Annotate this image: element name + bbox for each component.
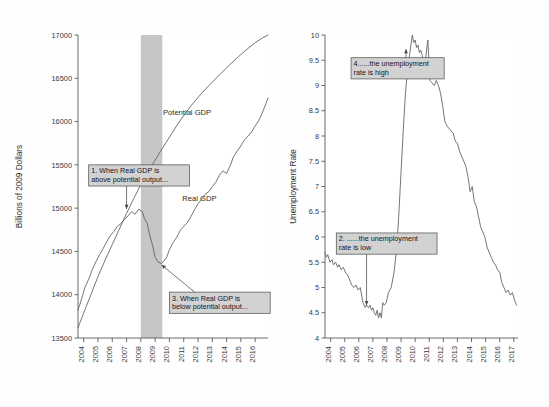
x-tick-label: 2013 bbox=[450, 346, 459, 362]
series-label-real-gdp: Real GDP bbox=[182, 194, 216, 203]
x-tick-label: 2005 bbox=[338, 346, 347, 362]
y-tick-label: 13500 bbox=[51, 334, 72, 343]
x-tick-label: 2008 bbox=[380, 346, 389, 362]
y-tick-label: 17000 bbox=[51, 31, 72, 40]
x-tick-label: 2017 bbox=[507, 346, 516, 362]
y-tick-label: 4.5 bbox=[309, 308, 319, 317]
x-tick-label: 2011 bbox=[422, 346, 431, 362]
y-axis-title-left: Billions of 2009 Dollars bbox=[15, 145, 24, 228]
panel-right: 44.555.566.577.588.599.51020042005200620… bbox=[289, 31, 518, 363]
y-tick-label: 8.5 bbox=[309, 106, 319, 115]
y-tick-label: 6 bbox=[315, 233, 319, 242]
y-tick-label: 14000 bbox=[51, 290, 72, 299]
y-tick-label: 5.5 bbox=[309, 258, 319, 267]
y-tick-label: 7 bbox=[315, 182, 319, 191]
x-tick-label: 2005 bbox=[91, 346, 100, 362]
callout-4-text: rate is high bbox=[354, 68, 389, 77]
callout-1-text: above potential output... bbox=[91, 175, 168, 184]
y-tick-label: 6.5 bbox=[309, 207, 319, 216]
y-axis-title-right: Unemployment Rate bbox=[289, 149, 298, 224]
y-tick-label: 10 bbox=[311, 31, 319, 40]
x-tick-label: 2009 bbox=[148, 346, 157, 362]
x-tick-label: 2007 bbox=[366, 346, 375, 362]
x-tick-label: 2004 bbox=[77, 346, 86, 362]
y-tick-label: 15500 bbox=[51, 161, 72, 170]
callout-2-text: rate is low bbox=[339, 243, 372, 252]
x-tick-label: 2014 bbox=[465, 346, 474, 362]
x-tick-label: 2012 bbox=[191, 346, 200, 362]
y-tick-label: 8 bbox=[315, 132, 319, 141]
recession-shading bbox=[141, 35, 162, 338]
y-tick-label: 9 bbox=[315, 81, 319, 90]
plot-area-right bbox=[325, 35, 518, 338]
x-tick-label: 2006 bbox=[352, 346, 361, 362]
x-tick-label: 2015 bbox=[234, 346, 243, 362]
x-tick-label: 2015 bbox=[479, 346, 488, 362]
x-tick-label: 2007 bbox=[120, 346, 129, 362]
callout-3-text: below potential output... bbox=[172, 302, 248, 311]
series-label-potential-gdp: Potential GDP bbox=[163, 108, 211, 117]
x-tick-label: 2012 bbox=[436, 346, 445, 362]
y-tick-label: 5 bbox=[315, 283, 319, 292]
x-tick-label: 2006 bbox=[105, 346, 114, 362]
x-tick-label: 2008 bbox=[134, 346, 143, 362]
x-tick-label: 2010 bbox=[162, 346, 171, 362]
y-tick-label: 9.5 bbox=[309, 56, 319, 65]
y-tick-label: 15000 bbox=[51, 204, 72, 213]
x-tick-label: 2011 bbox=[177, 346, 186, 362]
two-panel-figure: 1350014000145001500015500160001650017000… bbox=[0, 0, 549, 407]
y-tick-label: 16500 bbox=[51, 74, 72, 83]
y-tick-label: 14500 bbox=[51, 247, 72, 256]
y-tick-label: 4 bbox=[315, 334, 319, 343]
x-tick-label: 2009 bbox=[394, 346, 403, 362]
x-tick-label: 2016 bbox=[493, 346, 502, 362]
x-tick-label: 2010 bbox=[408, 346, 417, 362]
figure-canvas: 1350014000145001500015500160001650017000… bbox=[0, 0, 549, 407]
x-tick-label: 2014 bbox=[220, 346, 229, 362]
x-tick-label: 2013 bbox=[205, 346, 214, 362]
y-tick-label: 16000 bbox=[51, 117, 72, 126]
y-tick-label: 7.5 bbox=[309, 157, 319, 166]
x-tick-label: 2016 bbox=[248, 346, 257, 362]
x-tick-label: 2004 bbox=[324, 346, 333, 362]
panel-left: 1350014000145001500015500160001650017000… bbox=[15, 31, 270, 363]
